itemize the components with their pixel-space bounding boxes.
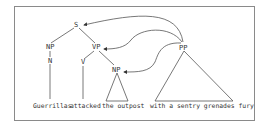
syntax-tree-diagram: S NP VP N V NP PP Guerrillas attacked th… bbox=[0, 0, 270, 131]
node-np-object: NP bbox=[112, 66, 120, 74]
node-np-subject: NP bbox=[46, 43, 54, 51]
node-pp: PP bbox=[179, 44, 187, 52]
tree-edges bbox=[50, 28, 233, 101]
node-s: S bbox=[74, 21, 78, 29]
node-v: V bbox=[81, 58, 86, 66]
word-object: the outpost bbox=[102, 102, 144, 110]
word-pp-phrase: with a sentry grenades fury bbox=[150, 102, 254, 110]
word-verb: attacked bbox=[70, 102, 101, 110]
word-subject: Guerrillas bbox=[33, 102, 72, 110]
node-n: N bbox=[48, 57, 52, 65]
node-labels: S NP VP N V NP PP bbox=[46, 21, 187, 74]
node-vp: VP bbox=[92, 43, 100, 51]
sentence-words: Guerrillas attacked the outpost with a s… bbox=[33, 102, 254, 110]
